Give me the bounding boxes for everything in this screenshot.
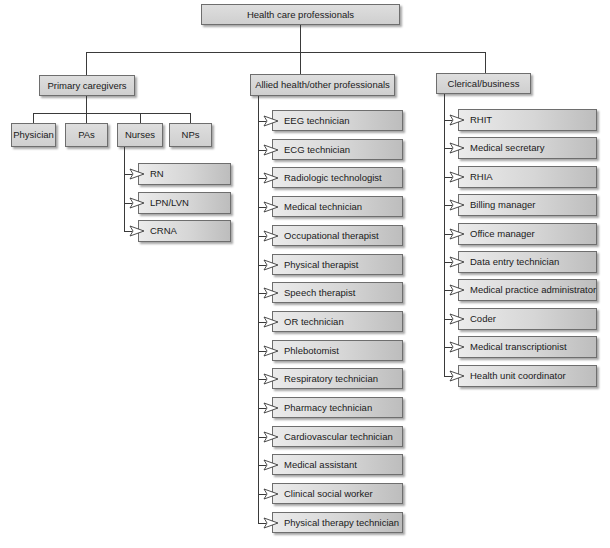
category-label: Allied health/other professionals	[255, 80, 390, 90]
node-data-entry-technician: Data entry technician	[458, 251, 597, 273]
arrow-right-icon	[263, 144, 279, 156]
node-crna: CRNA	[138, 220, 231, 242]
node-label: ECG technician	[284, 145, 350, 155]
connector	[86, 113, 87, 123]
arrow-right-icon	[263, 230, 279, 242]
node-medical-transcriptionist: Medical transcriptionist	[458, 336, 597, 358]
node-label: CRNA	[150, 226, 177, 236]
arrow-right-icon	[263, 431, 279, 443]
node-rn: RN	[138, 163, 231, 185]
node-office-manager: Office manager	[458, 223, 597, 245]
arrow-right-icon	[449, 171, 465, 183]
node-label: Phlebotomist	[284, 346, 339, 356]
node-label: Physician	[13, 130, 54, 140]
connector	[190, 113, 191, 123]
node-occupational-therapist: Occupational therapist	[272, 225, 403, 246]
node-coder: Coder	[458, 308, 597, 330]
connector	[86, 52, 485, 53]
node-label: Pharmacy technician	[284, 403, 372, 413]
node-label: Health unit coordinator	[470, 371, 566, 381]
arrow-right-icon	[263, 488, 279, 500]
node-physical-therapist: Physical therapist	[272, 254, 403, 275]
node-or-technician: OR technician	[272, 311, 403, 332]
arrow-right-icon	[449, 313, 465, 325]
category-label: Clerical/business	[448, 79, 520, 89]
connector	[86, 96, 87, 113]
node-respiratory-technician: Respiratory technician	[272, 368, 403, 389]
arrow-right-icon	[449, 370, 465, 382]
node-pharmacy-technician: Pharmacy technician	[272, 397, 403, 418]
node-label: Medical secretary	[470, 143, 544, 153]
arrow-right-icon	[263, 459, 279, 471]
category-clerical-business: Clerical/business	[436, 73, 531, 94]
connector	[258, 96, 259, 523]
category-primary-caregivers: Primary caregivers	[39, 75, 135, 96]
node-label: RHIT	[470, 115, 492, 125]
node-label: Cardiovascular technician	[284, 432, 393, 442]
node-ecg-technician: ECG technician	[272, 139, 403, 160]
node-pas: PAs	[65, 123, 108, 147]
arrow-right-icon	[449, 256, 465, 268]
node-label: Nurses	[125, 130, 155, 140]
arrow-right-icon	[263, 259, 279, 271]
arrow-right-icon	[263, 373, 279, 385]
node-lpn-lvn: LPN/LVN	[138, 192, 231, 214]
node-label: Medical transcriptionist	[470, 342, 567, 352]
connector	[485, 52, 486, 73]
arrow-right-icon	[129, 197, 145, 209]
node-label: Physical therapist	[284, 260, 358, 270]
arrow-right-icon	[263, 201, 279, 213]
node-label: RHIA	[470, 172, 493, 182]
arrow-right-icon	[129, 225, 145, 237]
node-label: PAs	[78, 130, 95, 140]
node-eeg-technician: EEG technician	[272, 110, 403, 131]
node-label: Billing manager	[470, 200, 535, 210]
node-label: Medical technician	[284, 202, 362, 212]
node-label: Coder	[470, 314, 496, 324]
node-label: Occupational therapist	[284, 231, 379, 241]
node-rhit: RHIT	[458, 109, 597, 131]
arrow-right-icon	[129, 168, 145, 180]
connector	[140, 113, 141, 123]
node-billing-manager: Billing manager	[458, 194, 597, 216]
arrow-right-icon	[263, 115, 279, 127]
connector	[33, 113, 34, 123]
connector	[300, 52, 301, 74]
node-label: Medical practice administrator	[470, 285, 596, 295]
node-cardiovascular-technician: Cardiovascular technician	[272, 426, 403, 447]
node-label: Clinical social worker	[284, 489, 373, 499]
node-label: OR technician	[284, 317, 344, 327]
root-node: Health care professionals	[201, 4, 400, 25]
arrow-right-icon	[449, 114, 465, 126]
node-medical-practice-administrator: Medical practice administrator	[458, 279, 597, 301]
node-phlebotomist: Phlebotomist	[272, 340, 403, 361]
arrow-right-icon	[263, 287, 279, 299]
arrow-right-icon	[449, 199, 465, 211]
arrow-right-icon	[449, 341, 465, 353]
node-nurses: Nurses	[117, 123, 163, 147]
arrow-right-icon	[449, 142, 465, 154]
node-medical-assistant: Medical assistant	[272, 454, 403, 475]
node-label: Physical therapy technician	[284, 518, 399, 528]
node-rhia: RHIA	[458, 166, 597, 188]
node-label: NPs	[182, 130, 200, 140]
node-label: Radiologic technologist	[284, 173, 382, 183]
connector	[86, 52, 87, 75]
arrow-right-icon	[263, 345, 279, 357]
root-label: Health care professionals	[247, 10, 354, 20]
node-label: Office manager	[470, 229, 535, 239]
node-medical-secretary: Medical secretary	[458, 137, 597, 159]
node-medical-technician: Medical technician	[272, 196, 403, 217]
node-physical-therapy-technician: Physical therapy technician	[272, 512, 403, 533]
category-label: Primary caregivers	[47, 81, 126, 91]
node-label: LPN/LVN	[150, 198, 189, 208]
arrow-right-icon	[263, 402, 279, 414]
arrow-right-icon	[449, 284, 465, 296]
connector	[33, 113, 191, 114]
arrow-right-icon	[263, 316, 279, 328]
node-nps: NPs	[169, 123, 212, 147]
node-label: Speech therapist	[284, 288, 355, 298]
node-radiologic-technologist: Radiologic technologist	[272, 167, 403, 188]
node-speech-therapist: Speech therapist	[272, 282, 403, 303]
node-physician: Physician	[11, 123, 56, 147]
